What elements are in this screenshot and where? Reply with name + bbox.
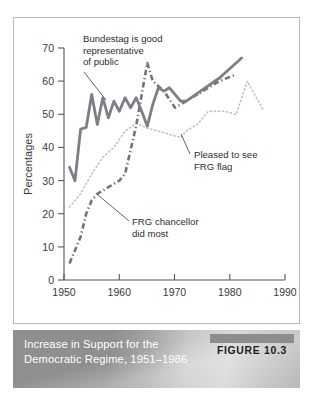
- y-tick-label-50: 50: [42, 108, 54, 120]
- y-tick-label-70: 70: [42, 42, 54, 54]
- y-tick-label-60: 60: [42, 75, 54, 87]
- figure-container: 70 60 50 40 30 20 10 0 1950 1960 1970 19…: [0, 0, 313, 395]
- line-chart: 70 60 50 40 30 20 10 0 1950 1960 1970 19…: [14, 18, 301, 325]
- x-tick-label-1960: 1960: [108, 286, 132, 298]
- annotation-frg-flag-leader-line: [181, 134, 190, 154]
- y-tick-label-30: 30: [42, 175, 54, 187]
- annotation-frg-chancellor-line-1: FRG chancellor: [132, 216, 199, 227]
- annotation-bundestag-line-1: Bundestag is good: [83, 33, 162, 44]
- x-tick-label-1970: 1970: [163, 286, 187, 298]
- y-tick-labels: 70 60 50 40 30 20 10 0: [42, 42, 54, 286]
- annotation-bundestag-line-2: representative: [83, 45, 144, 56]
- x-tick-label-1950: 1950: [52, 286, 76, 298]
- y-axis-title: Percentages: [22, 133, 34, 195]
- figure-caption-band: Increase in Support for the Democratic R…: [13, 330, 300, 388]
- annotation-bundestag-leader-line: [84, 72, 106, 100]
- figure-number-label: FIGURE 10.3: [210, 345, 294, 356]
- x-tick-label-1990: 1990: [273, 286, 297, 298]
- annotation-bundestag-line-3: of public: [83, 56, 119, 67]
- figure-caption-text: Increase in Support for the Democratic R…: [24, 337, 199, 366]
- series-line-frg-flag: [70, 81, 264, 207]
- annotation-frg-chancellor: FRG chancellor did most: [98, 195, 199, 239]
- y-tick-label-10: 10: [42, 241, 54, 253]
- annotation-frg-flag-line-2: FRG flag: [194, 161, 232, 172]
- y-tick-label-20: 20: [42, 208, 54, 220]
- chart-frame: 70 60 50 40 30 20 10 0 1950 1960 1970 19…: [13, 17, 300, 324]
- annotation-frg-chancellor-leader-line: [98, 195, 129, 221]
- annotation-frg-chancellor-line-2: did most: [132, 228, 169, 239]
- x-tick-labels: 1950 1960 1970 1980 1990: [52, 286, 297, 298]
- y-tick-label-0: 0: [48, 274, 54, 286]
- annotation-frg-flag-line-1: Pleased to see: [194, 149, 257, 160]
- x-tick-label-1980: 1980: [218, 286, 242, 298]
- annotation-bundestag: Bundestag is good representative of publ…: [83, 33, 162, 100]
- annotation-frg-flag: Pleased to see FRG flag: [181, 134, 257, 172]
- figure-number-badge: [210, 334, 294, 343]
- y-tick-label-40: 40: [42, 141, 54, 153]
